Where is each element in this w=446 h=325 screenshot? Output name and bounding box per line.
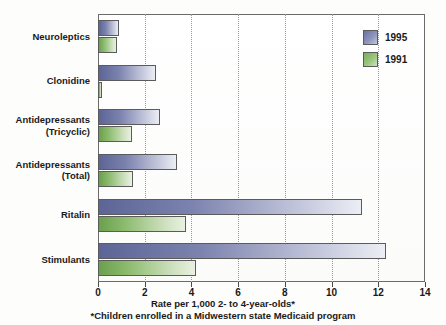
bar-clonidine-1991[interactable]	[98, 82, 102, 98]
category-label-clonidine: Clonidine	[0, 75, 90, 87]
gridline-10	[332, 14, 333, 282]
category-label-line1: Neuroleptics	[0, 31, 90, 43]
legend: 1995 1991	[363, 26, 407, 70]
bar-neuroleptics-1991[interactable]	[98, 37, 117, 53]
x-tick-label-8: 8	[270, 287, 300, 298]
category-label-line2: (Total)	[0, 170, 90, 182]
chart-footnote: *Children enrolled in a Midwestern state…	[0, 310, 446, 321]
x-tick-label-4: 4	[176, 287, 206, 298]
x-tick-label-12: 12	[363, 287, 393, 298]
x-tick-label-0: 0	[83, 287, 113, 298]
bar-antidepressants-tricyclic-1991[interactable]	[98, 126, 132, 142]
x-tick-label-6: 6	[223, 287, 253, 298]
bar-neuroleptics-1995[interactable]	[98, 20, 119, 36]
bar-antidepressants-total-1995[interactable]	[98, 154, 177, 170]
legend-item-1991[interactable]: 1991	[363, 48, 407, 70]
category-label-ritalin: Ritalin	[0, 209, 90, 221]
bar-ritalin-1995[interactable]	[98, 199, 362, 215]
x-tick-label-10: 10	[317, 287, 347, 298]
legend-item-1995[interactable]: 1995	[363, 26, 407, 48]
category-label-antidepressants-tricyclic: Antidepressants(Tricyclic)	[0, 114, 90, 137]
chart-figure: NeurolepticsClonidineAntidepressants(Tri…	[0, 0, 446, 325]
category-label-line1: Stimulants	[0, 254, 90, 266]
legend-label-1991: 1991	[385, 54, 407, 65]
category-label-antidepressants-total: Antidepressants(Total)	[0, 159, 90, 182]
x-tick-label-2: 2	[130, 287, 160, 298]
x-axis-title: Rate per 1,000 2- to 4-year-olds*	[0, 298, 446, 309]
category-label-line1: Antidepressants	[0, 114, 90, 126]
bar-clonidine-1995[interactable]	[98, 65, 156, 81]
gridline-4	[191, 14, 192, 282]
category-label-line1: Antidepressants	[0, 159, 90, 171]
bar-ritalin-1991[interactable]	[98, 216, 186, 232]
x-tick-label-14: 14	[410, 287, 440, 298]
category-label-neuroleptics: Neuroleptics	[0, 31, 90, 43]
legend-swatch-1991-icon	[363, 52, 378, 67]
bar-stimulants-1991[interactable]	[98, 260, 196, 276]
category-label-line1: Ritalin	[0, 209, 90, 221]
bar-antidepressants-total-1991[interactable]	[98, 171, 133, 187]
bar-antidepressants-tricyclic-1995[interactable]	[98, 109, 160, 125]
legend-label-1995: 1995	[385, 32, 407, 43]
gridline-8	[285, 14, 286, 282]
category-label-line1: Clonidine	[0, 75, 90, 87]
legend-swatch-1995-icon	[363, 30, 378, 45]
category-label-line2: (Tricyclic)	[0, 126, 90, 138]
gridline-6	[238, 14, 239, 282]
gridline-2	[145, 14, 146, 282]
category-label-stimulants: Stimulants	[0, 254, 90, 266]
bar-stimulants-1995[interactable]	[98, 243, 386, 259]
